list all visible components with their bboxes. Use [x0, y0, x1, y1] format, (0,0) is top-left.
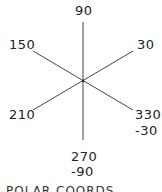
- label-90: 90: [75, 4, 93, 18]
- label-270: 270: [71, 150, 97, 164]
- footer-caption: POLAR COORDS: [6, 184, 114, 192]
- label-minus-30: -30: [135, 124, 158, 138]
- label-210: 210: [9, 108, 35, 122]
- label-150: 150: [9, 38, 35, 52]
- label-minus-90: -90: [71, 165, 94, 179]
- label-330: 330: [135, 108, 161, 122]
- origin-point: [82, 80, 84, 82]
- label-30: 30: [137, 38, 155, 52]
